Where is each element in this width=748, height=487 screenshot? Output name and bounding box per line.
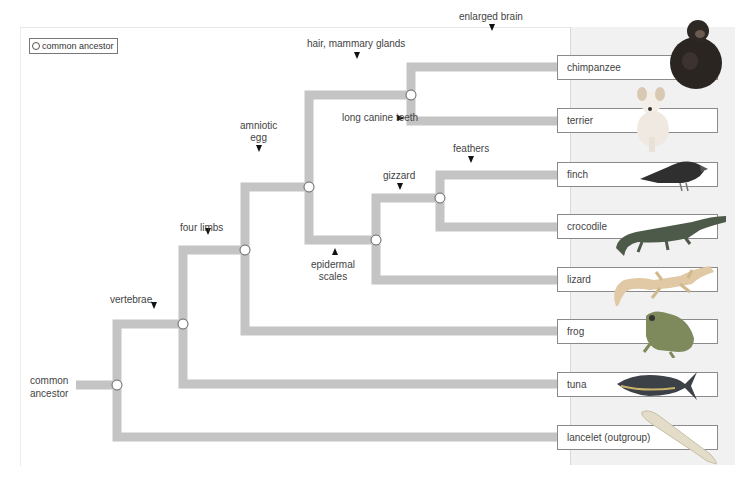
marker-gizzard bbox=[397, 183, 403, 190]
trait-epidermal-scales: epidermal scales bbox=[311, 259, 355, 283]
root-label: common ancestor bbox=[30, 374, 68, 400]
trait-four-limbs: four limbs bbox=[180, 222, 223, 234]
lancelet-image bbox=[640, 408, 720, 468]
fish-image bbox=[615, 368, 699, 402]
bird-image bbox=[638, 155, 710, 195]
branch-archosaurs bbox=[440, 175, 560, 227]
legend: common ancestor bbox=[29, 38, 118, 54]
node-vertebrates bbox=[178, 319, 188, 329]
marker-amniotic-egg bbox=[256, 145, 262, 152]
node-tetrapods bbox=[240, 245, 250, 255]
trait-long-canine-teeth: long canine teeth bbox=[342, 112, 418, 124]
marker-hair bbox=[354, 52, 360, 59]
node-mammals bbox=[406, 90, 416, 100]
frog-image bbox=[640, 308, 698, 358]
marker-epidermal-scales bbox=[332, 248, 338, 255]
trait-hair-mammary-glands: hair, mammary glands bbox=[307, 38, 405, 50]
crocodile-image bbox=[612, 208, 730, 260]
node-amniotes bbox=[304, 182, 314, 192]
lizard-image bbox=[610, 258, 716, 310]
node-root bbox=[112, 380, 122, 390]
legend-label: common ancestor bbox=[42, 41, 114, 51]
marker-feathers bbox=[468, 156, 474, 163]
node-reptiles bbox=[371, 235, 381, 245]
trait-amniotic-egg: amniotic egg bbox=[240, 120, 277, 144]
trait-gizzard: gizzard bbox=[383, 170, 415, 182]
trait-feathers: feathers bbox=[453, 143, 489, 155]
branch-mammals bbox=[411, 67, 560, 121]
trait-enlarged-brain: enlarged brain bbox=[459, 11, 523, 23]
node-circle-icon bbox=[32, 42, 40, 50]
trait-vertebrae: vertebrae bbox=[110, 294, 152, 306]
branch-frog bbox=[245, 187, 560, 331]
branch-lizard bbox=[376, 198, 560, 280]
node-archosaurs bbox=[435, 193, 445, 203]
dog-image bbox=[625, 85, 683, 153]
chimpanzee-image bbox=[664, 17, 728, 91]
marker-enlarged-brain bbox=[489, 24, 495, 31]
